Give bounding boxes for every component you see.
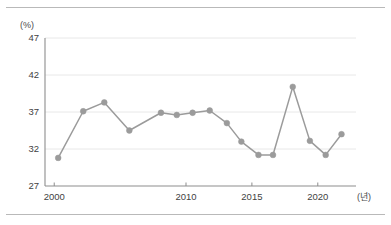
x-axis-unit-label: (년) <box>357 190 371 203</box>
data-point-marker <box>55 155 61 161</box>
data-point-marker <box>238 139 244 145</box>
data-point-marker <box>339 131 345 137</box>
data-point-marker <box>174 112 180 118</box>
data-point-marker <box>290 84 296 90</box>
y-axis-unit-label: (%) <box>20 20 34 30</box>
data-point-marker <box>270 152 276 158</box>
data-line <box>58 87 341 158</box>
x-axis-tick-label: 2010 <box>166 191 206 202</box>
data-point-marker <box>224 120 230 126</box>
data-point-marker <box>323 152 329 158</box>
data-point-marker <box>101 99 107 105</box>
x-axis-tick-label: 2000 <box>34 191 74 202</box>
data-point-marker <box>256 152 262 158</box>
data-point-marker <box>158 110 164 116</box>
x-axis-tick-label: 2020 <box>298 191 338 202</box>
data-point-marker <box>207 108 213 114</box>
data-point-marker <box>307 138 313 144</box>
y-axis-tick-label: 27 <box>17 180 39 191</box>
y-axis-tick-label: 32 <box>17 143 39 154</box>
data-point-marker <box>126 128 132 134</box>
y-axis-tick-label: 42 <box>17 69 39 80</box>
data-point-marker <box>80 108 86 114</box>
data-point-marker <box>190 110 196 116</box>
x-axis-tick-label: 2015 <box>232 191 272 202</box>
y-axis-tick-label: 37 <box>17 106 39 117</box>
chart-figure: (%) (년) 2732374247 2000201020152020 <box>0 0 391 225</box>
y-axis-tick-label: 47 <box>17 32 39 43</box>
